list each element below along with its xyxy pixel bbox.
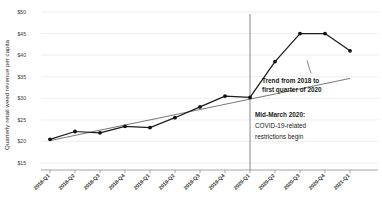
- trend-annotation-line1: Trend from 2018 to: [262, 77, 319, 84]
- y-tick-15: $15: [18, 160, 27, 166]
- x-tick-2020-q4: 2020-Q4: [307, 172, 326, 191]
- y-axis-label: Quarterly retail weed revenue per capita: [3, 39, 10, 150]
- x-tick-2018-q3: 2018-Q3: [82, 172, 101, 191]
- data-point: [198, 105, 202, 109]
- y-tick-labels: $50 $45 $40 $35 $30 $25 $20 $15: [18, 9, 27, 166]
- x-tick-2018-q1: 2018-Q1: [32, 172, 51, 191]
- covid-annotation-line3: restrictions begin: [255, 133, 304, 141]
- y-tick-25: $25: [18, 117, 27, 123]
- x-tick-2021-q1: 2021-Q1: [332, 172, 351, 191]
- data-point: [323, 32, 327, 36]
- x-tick-2020-q2: 2020-Q2: [257, 172, 276, 191]
- data-point: [248, 96, 252, 100]
- data-point: [73, 130, 77, 134]
- y-tick-40: $40: [18, 52, 27, 58]
- x-tick-2018-q4: 2018-Q4: [107, 172, 126, 191]
- x-tick-2019-q2: 2019-Q2: [157, 172, 176, 191]
- x-tick-2019-q4: 2019-Q4: [207, 172, 226, 191]
- data-point: [298, 32, 302, 36]
- x-tick-2019-q1: 2019-Q1: [132, 172, 151, 191]
- data-point: [123, 124, 127, 128]
- data-point: [348, 49, 352, 53]
- y-tick-30: $30: [18, 95, 27, 101]
- y-tick-50: $50: [18, 9, 27, 15]
- y-tick-35: $35: [18, 74, 27, 80]
- covid-annotation-line1: Mid-March 2020:: [255, 111, 305, 118]
- data-point: [48, 137, 52, 141]
- covid-annotation: Mid-March 2020: COVID-19-related restric…: [255, 111, 307, 141]
- trend-leader-line: [307, 61, 311, 74]
- line-chart: Quarterly retail weed revenue per capita…: [0, 0, 382, 209]
- data-point: [273, 60, 277, 64]
- trend-annotation-line2: first quarter of 2020: [262, 86, 322, 94]
- covid-annotation-line2: COVID-19-related: [255, 122, 307, 129]
- x-tick-2019-q3: 2019-Q3: [182, 172, 201, 191]
- y-tick-45: $45: [18, 31, 27, 37]
- x-tick-labels: 2018-Q1 2018-Q2 2018-Q3 2018-Q4 2019-Q1 …: [32, 172, 351, 191]
- data-point: [223, 94, 227, 98]
- trend-annotation: Trend from 2018 to first quarter of 2020: [262, 77, 322, 94]
- chart-container: Quarterly retail weed revenue per capita…: [0, 0, 382, 209]
- data-point: [98, 131, 102, 135]
- y-tick-20: $20: [18, 138, 27, 144]
- x-tick-2018-q2: 2018-Q2: [57, 172, 76, 191]
- data-point: [173, 116, 177, 120]
- x-tick-2020-q3: 2020-Q3: [282, 172, 301, 191]
- x-tick-2020-q1: 2020-Q1: [232, 172, 251, 191]
- data-point: [148, 126, 152, 130]
